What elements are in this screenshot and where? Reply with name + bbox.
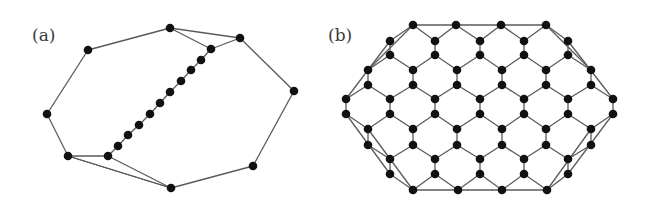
graph-node [587, 125, 596, 134]
graph-edge [47, 114, 68, 156]
graph-edge [211, 38, 240, 49]
graph-node [476, 155, 485, 164]
graph-node [542, 21, 551, 30]
graph-node [453, 125, 462, 134]
graph-node [166, 24, 175, 33]
graph-node [43, 110, 52, 119]
graph-node [386, 37, 395, 46]
hull-edge [368, 25, 413, 70]
graph-node [564, 155, 573, 164]
graph-edge [253, 91, 294, 166]
graph-node [236, 34, 245, 43]
graph-node [587, 141, 596, 150]
graph-node [452, 21, 461, 30]
graph-edge [171, 166, 253, 188]
graph-node [587, 66, 596, 75]
graph-node [564, 170, 573, 179]
panel-b-graph [342, 21, 618, 195]
graph-node [564, 110, 573, 119]
graph-node [542, 66, 551, 75]
graph-node [520, 95, 529, 104]
graph-node [386, 95, 395, 104]
graph-node [177, 77, 186, 86]
graph-node [386, 155, 395, 164]
graph-node [431, 155, 440, 164]
graph-node [207, 45, 216, 54]
graph-node [409, 125, 418, 134]
graph-node [520, 170, 529, 179]
graph-node [476, 170, 485, 179]
graph-node [520, 37, 529, 46]
graph-node [64, 152, 73, 161]
graph-node [156, 99, 165, 108]
graph-node [342, 110, 351, 119]
graph-node [364, 141, 373, 150]
lattice-edge [456, 25, 480, 41]
hull-edge [546, 25, 591, 70]
graph-node [409, 141, 418, 150]
graph-node [431, 110, 440, 119]
graph-node [476, 110, 485, 119]
graph-node [431, 170, 440, 179]
graph-node [498, 81, 507, 90]
graph-node [498, 66, 507, 75]
graph-node [564, 37, 573, 46]
graph-node [409, 186, 418, 195]
graph-node [84, 46, 93, 55]
graph-node [543, 186, 552, 195]
panel-a-graph [43, 24, 299, 193]
graph-node [197, 56, 206, 65]
graph-node [409, 66, 418, 75]
graph-node [135, 121, 144, 130]
graph-edge [68, 156, 171, 188]
graph-node [146, 110, 155, 119]
graph-node [364, 81, 373, 90]
panel-b-label: (b) [328, 25, 352, 45]
panel-a-label: (a) [32, 25, 55, 45]
graph-node [476, 95, 485, 104]
graph-node [342, 95, 351, 104]
graph-node [453, 81, 462, 90]
graph-node [498, 141, 507, 150]
graph-node [431, 37, 440, 46]
graph-node [104, 152, 113, 161]
graph-node [498, 186, 507, 195]
graph-node [364, 66, 373, 75]
graph-node [431, 51, 440, 60]
graph-node [114, 142, 123, 151]
graph-node [386, 170, 395, 179]
graph-node [476, 51, 485, 60]
graph-node [564, 51, 573, 60]
figure: (a) (b) [0, 0, 652, 211]
graph-node [564, 95, 573, 104]
graph-node [609, 110, 618, 119]
graph-node [453, 66, 462, 75]
graph-node [166, 88, 175, 97]
graph-node [520, 110, 529, 119]
graph-edge [240, 38, 294, 91]
graph-node [249, 162, 258, 171]
graph-node [542, 81, 551, 90]
graph-node [476, 37, 485, 46]
graph-node [167, 184, 176, 193]
graph-node [431, 95, 440, 104]
graph-node [542, 141, 551, 150]
graph-node [520, 155, 529, 164]
graph-node [609, 95, 618, 104]
graph-canvas [0, 0, 652, 211]
graph-node [587, 81, 596, 90]
graph-node [497, 21, 506, 30]
graph-node [386, 51, 395, 60]
graph-node [364, 125, 373, 134]
graph-node [453, 141, 462, 150]
graph-node [386, 110, 395, 119]
graph-node [290, 87, 299, 96]
graph-node [520, 51, 529, 60]
graph-node [454, 186, 463, 195]
graph-node [124, 131, 133, 140]
graph-node [542, 125, 551, 134]
graph-node [498, 125, 507, 134]
graph-node [187, 66, 196, 75]
graph-node [409, 81, 418, 90]
graph-edge [47, 50, 88, 114]
